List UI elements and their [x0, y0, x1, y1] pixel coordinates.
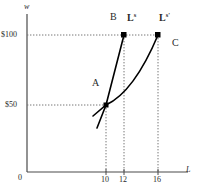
curve-label-superscript: s: [134, 11, 137, 18]
labor-supply-curve-original: [97, 35, 124, 128]
curve-label-base: L: [127, 12, 134, 23]
point-marker-b: [121, 32, 127, 38]
curve-label-labor-supply-original: Ls: [127, 12, 136, 23]
curve-label-superscript: s': [166, 11, 170, 18]
curve-label-labor-supply-shifted: Ls': [159, 12, 170, 23]
curve-label-base: L: [159, 12, 166, 23]
x-tick-label-12: 12: [119, 176, 127, 184]
labor-supply-figure: w L 0 $100 $50 10 12 16 A B C Ls Ls': [0, 0, 197, 193]
origin-label: 0: [18, 174, 22, 182]
labor-supply-curve-shifted: [93, 35, 158, 116]
point-label-b: B: [110, 12, 117, 22]
figure-canvas: [0, 0, 197, 193]
y-tick-label-100: $100: [1, 31, 17, 39]
x-tick-label-16: 16: [153, 176, 161, 184]
point-marker-a: [104, 103, 109, 108]
x-axis-label: L: [186, 166, 190, 174]
x-tick-label-10: 10: [101, 176, 109, 184]
point-marker-c: [155, 32, 161, 38]
y-axis-label: w: [24, 3, 29, 11]
point-label-a: A: [92, 78, 99, 88]
y-tick-label-50: $50: [5, 101, 17, 109]
point-label-c: C: [172, 38, 179, 48]
